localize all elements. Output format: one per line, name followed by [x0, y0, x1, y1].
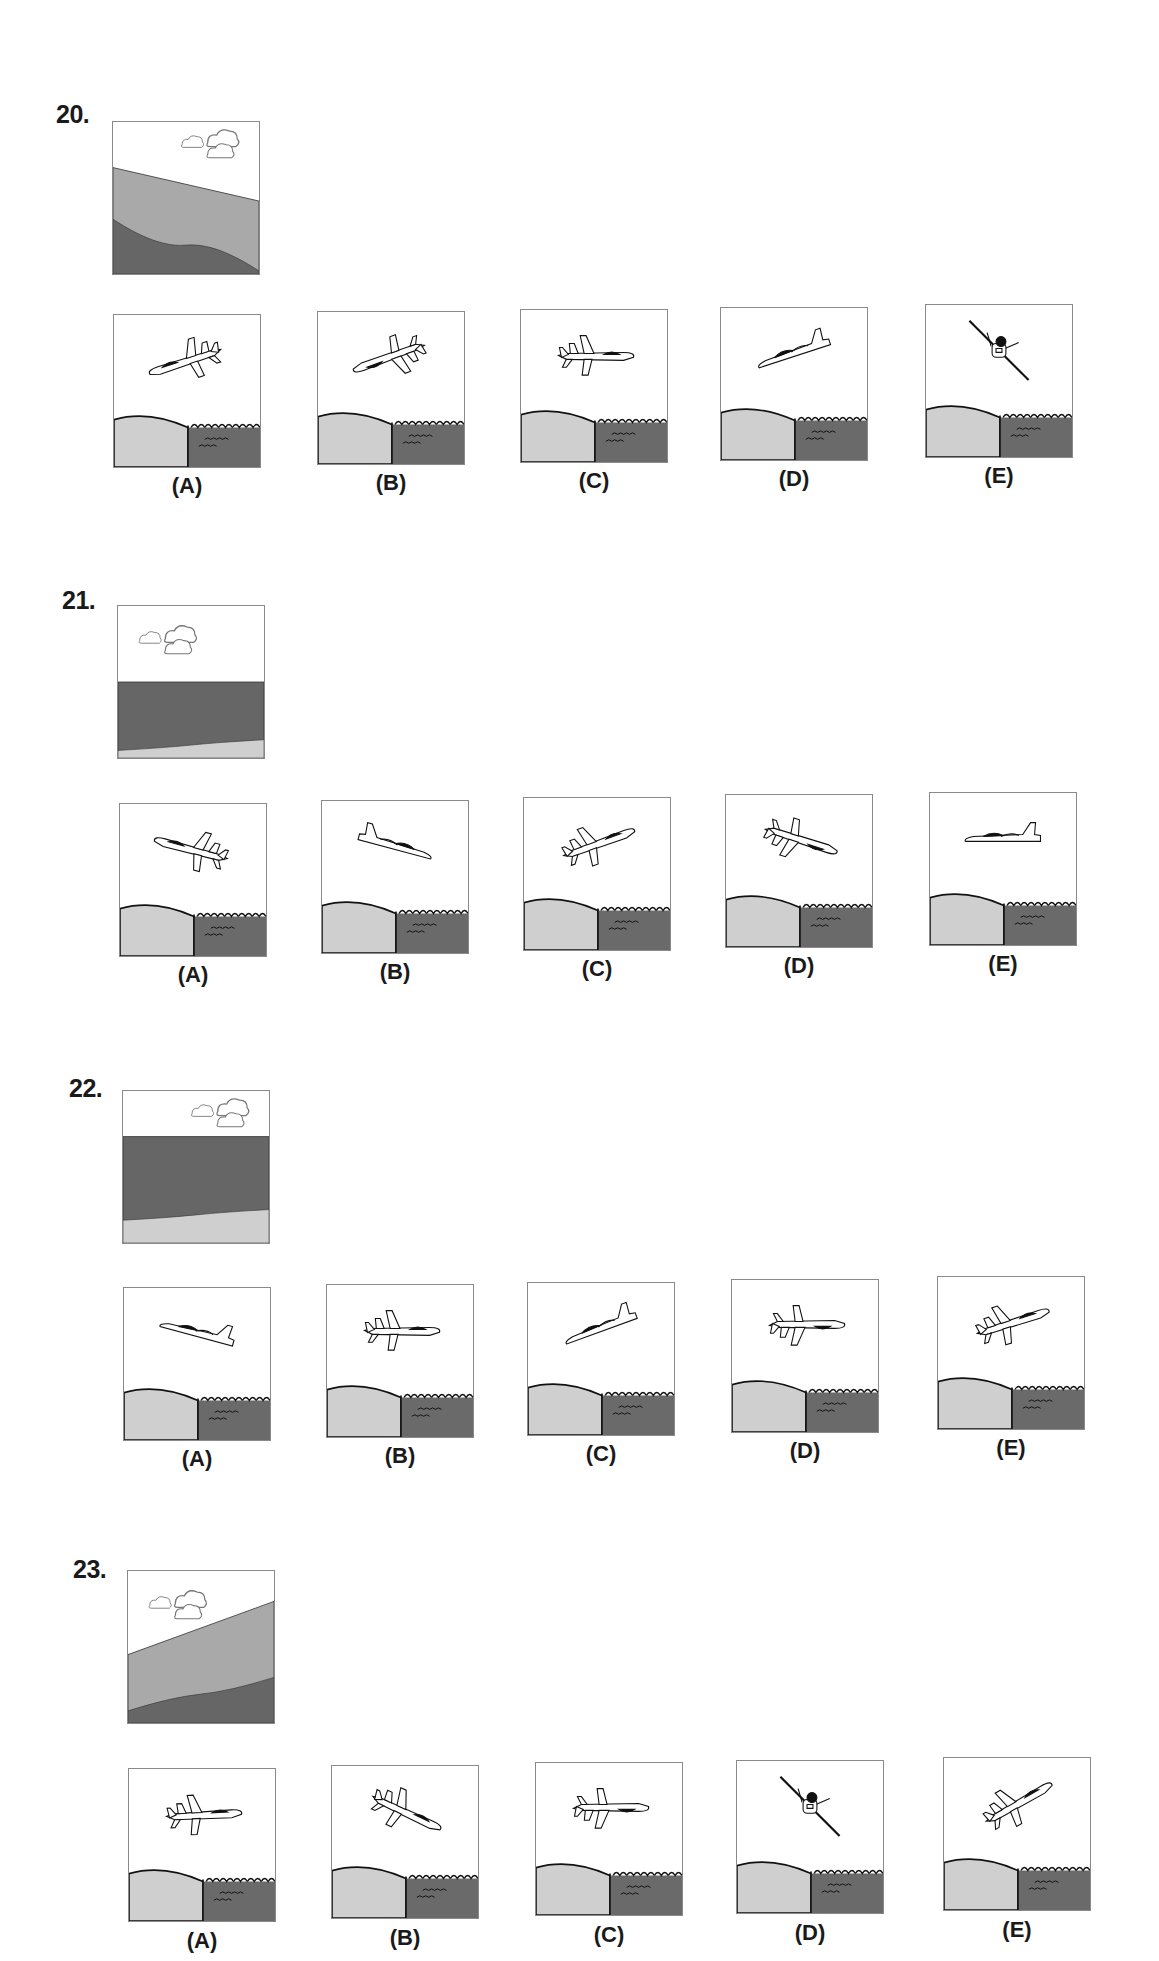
option-b-image[interactable] — [317, 311, 465, 465]
option-a-image[interactable] — [119, 803, 267, 957]
instrument-view — [127, 1570, 275, 1724]
option-b-image[interactable] — [326, 1284, 474, 1438]
option-d-image[interactable] — [720, 307, 868, 461]
option-a-label[interactable]: (A) — [113, 473, 261, 499]
question-number: 20. — [56, 100, 89, 129]
question-number: 22. — [69, 1074, 102, 1103]
instrument-view — [117, 605, 265, 759]
option-a-image[interactable] — [113, 314, 261, 468]
option-c-label[interactable]: (C) — [535, 1922, 683, 1948]
option-b-label[interactable]: (B) — [326, 1443, 474, 1469]
option-a-label[interactable]: (A) — [119, 962, 267, 988]
option-e-image[interactable] — [925, 304, 1073, 458]
option-e-label[interactable]: (E) — [937, 1435, 1085, 1461]
option-b-label[interactable]: (B) — [317, 470, 465, 496]
option-c-image[interactable] — [535, 1762, 683, 1916]
option-a-image[interactable] — [123, 1287, 271, 1441]
option-d-label[interactable]: (D) — [720, 466, 868, 492]
option-e-label[interactable]: (E) — [943, 1917, 1091, 1943]
option-d-image[interactable] — [736, 1760, 884, 1914]
option-e-label[interactable]: (E) — [925, 463, 1073, 489]
question-number: 21. — [62, 586, 95, 615]
option-d-label[interactable]: (D) — [731, 1438, 879, 1464]
option-b-label[interactable]: (B) — [321, 959, 469, 985]
option-c-image[interactable] — [523, 797, 671, 951]
option-e-image[interactable] — [929, 792, 1077, 946]
option-d-image[interactable] — [731, 1279, 879, 1433]
option-d-image[interactable] — [725, 794, 873, 948]
option-b-image[interactable] — [321, 800, 469, 954]
option-b-image[interactable] — [331, 1765, 479, 1919]
option-e-label[interactable]: (E) — [929, 951, 1077, 977]
instrument-view — [122, 1090, 270, 1244]
question-number: 23. — [73, 1555, 106, 1584]
option-b-label[interactable]: (B) — [331, 1925, 479, 1951]
option-e-image[interactable] — [937, 1276, 1085, 1430]
option-a-label[interactable]: (A) — [123, 1446, 271, 1472]
option-a-label[interactable]: (A) — [128, 1928, 276, 1954]
option-c-image[interactable] — [527, 1282, 675, 1436]
option-d-label[interactable]: (D) — [736, 1920, 884, 1946]
option-c-label[interactable]: (C) — [527, 1441, 675, 1467]
option-c-label[interactable]: (C) — [523, 956, 671, 982]
option-c-label[interactable]: (C) — [520, 468, 668, 494]
option-a-image[interactable] — [128, 1768, 276, 1922]
option-c-image[interactable] — [520, 309, 668, 463]
option-d-label[interactable]: (D) — [725, 953, 873, 979]
instrument-view — [112, 121, 260, 275]
option-e-image[interactable] — [943, 1757, 1091, 1911]
